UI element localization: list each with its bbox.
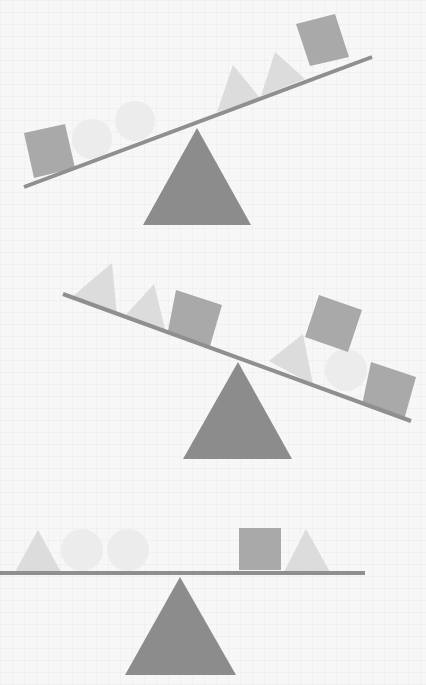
triangle-weight	[15, 530, 61, 572]
square-weight	[296, 14, 349, 66]
circle-weight	[107, 529, 149, 571]
circle-weight	[61, 529, 103, 571]
weights-layer	[15, 14, 416, 572]
circle-weight	[325, 349, 367, 391]
scale-2-fulcrum	[183, 362, 292, 459]
square-weight	[305, 295, 362, 352]
circle-weight	[72, 119, 112, 159]
balance-scales-diagram	[0, 0, 426, 685]
square-weight	[168, 290, 222, 346]
fulcrums-layer	[125, 128, 292, 675]
circle-weight	[115, 101, 155, 141]
square-weight	[239, 528, 281, 570]
scale-3-fulcrum	[125, 577, 236, 675]
scale-1-fulcrum	[143, 128, 251, 225]
triangle-weight	[284, 529, 330, 572]
